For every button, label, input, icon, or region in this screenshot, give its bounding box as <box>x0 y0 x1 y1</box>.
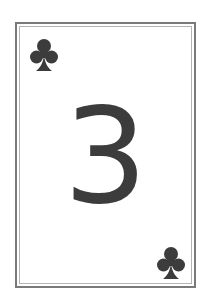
club-icon <box>30 38 58 72</box>
card-rank: 3 <box>17 90 194 222</box>
club-icon <box>157 246 185 280</box>
playing-card[interactable]: 3 <box>15 22 196 288</box>
